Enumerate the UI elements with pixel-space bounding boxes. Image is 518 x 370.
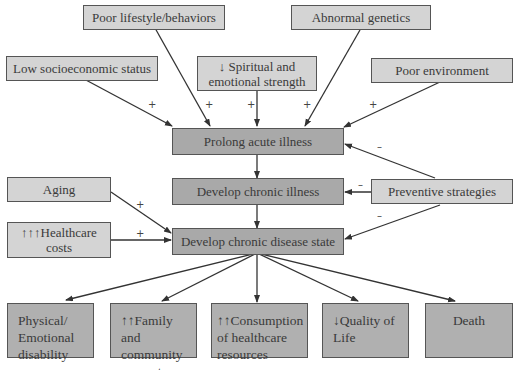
node-chronic-disease-state: Develop chronic disease state [172,228,344,255]
sign-plus-costs: + [136,228,144,239]
node-death: Death [425,303,513,358]
sign-minus-chronic-illness: – [358,179,363,190]
node-spiritual-emotional-strength: ↓ Spiritual and emotional strength [197,56,317,91]
node-consumption-healthcare-resources: ↑↑Consumption of healthcare resources [211,303,308,358]
sign-plus-spiritual: + [247,99,255,110]
node-poor-lifestyle: Poor lifestyle/behaviors [83,5,225,30]
sign-plus-genetics: + [303,99,311,110]
sign-minus-prolong: – [377,141,382,152]
node-low-socioeconomic-status: Low socioeconomic status [6,56,158,81]
sign-plus-aging: + [136,199,144,210]
sign-plus-low-ses: + [148,99,156,110]
node-develop-chronic-illness: Develop chronic illness [172,178,344,205]
node-abnormal-genetics: Abnormal genetics [291,5,431,30]
node-healthcare-costs: ↑↑↑Healthcare costs [7,222,111,258]
node-family-community-support: ↑↑Family and community support care [110,303,197,358]
sign-plus-environment: + [369,99,377,110]
node-poor-environment: Poor environment [371,58,513,83]
sign-minus-disease-state: – [377,210,382,221]
node-quality-of-life: ↓Quality of Life [322,303,409,358]
node-physical-emotional-disability: Physical/ Emotional disability [7,303,94,358]
node-aging: Aging [7,177,111,202]
node-prolong-acute-illness: Prolong acute illness [172,128,344,155]
node-preventive-strategies: Preventive strategies [371,179,513,204]
sign-plus-lifestyle: + [205,99,213,110]
